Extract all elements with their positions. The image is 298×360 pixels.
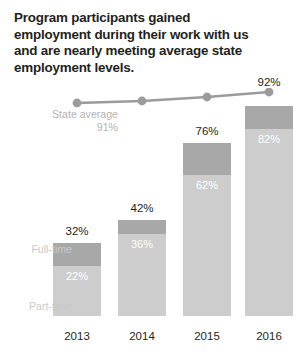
bar-column-2015: 76% 62% 2015 bbox=[183, 143, 231, 316]
x-axis-tick-2016: 2016 bbox=[245, 330, 293, 342]
bar-total-label-2015: 76% bbox=[183, 125, 231, 137]
bar-part-time-label-2015: 62% bbox=[183, 179, 231, 191]
headline-line-3: and are nearly meeting average state bbox=[14, 43, 286, 60]
bar-segment-full-time-2015 bbox=[183, 143, 231, 175]
state-average-annotation: State average 91% bbox=[18, 108, 118, 134]
chart-plot-area: 32% 22% 2013 42% 36% 2014 bbox=[0, 88, 298, 360]
legend-label-full-time: Full-time bbox=[0, 243, 72, 255]
stacked-bar-2015[interactable]: 62% bbox=[183, 143, 231, 316]
bar-segment-full-time-2014 bbox=[118, 220, 166, 234]
page-title: Program participants gained employment d… bbox=[14, 10, 286, 76]
state-average-annotation-title: State average bbox=[18, 108, 118, 121]
state-average-end-label: 92% bbox=[237, 76, 298, 88]
x-axis-tick-2015: 2015 bbox=[183, 330, 231, 342]
bar-segment-part-time-2015: 62% bbox=[183, 175, 231, 316]
bar-total-label-2013: 32% bbox=[53, 225, 101, 237]
x-axis-tick-2014: 2014 bbox=[118, 330, 166, 342]
bar-column-2016: 82% 2016 bbox=[245, 106, 293, 316]
headline-line-2: employment during their work with us bbox=[14, 27, 286, 44]
bar-part-time-label-2013: 22% bbox=[53, 270, 101, 282]
bar-part-time-label-2014: 36% bbox=[118, 238, 166, 250]
headline-line-1: Program participants gained bbox=[14, 10, 286, 27]
state-average-annotation-value: 91% bbox=[18, 121, 118, 134]
chart-figure: Program participants gained employment d… bbox=[0, 0, 298, 360]
bar-column-2014: 42% 36% 2014 bbox=[118, 220, 166, 316]
bar-segment-full-time-2016 bbox=[245, 106, 293, 129]
x-axis-tick-2013: 2013 bbox=[53, 330, 101, 342]
bar-segment-part-time-2014: 36% bbox=[118, 234, 166, 316]
bar-total-label-2014: 42% bbox=[118, 202, 166, 214]
headline-line-4: employment levels. bbox=[14, 60, 286, 77]
stacked-bar-2014[interactable]: 36% bbox=[118, 220, 166, 316]
legend-label-part-time: Part-time bbox=[0, 300, 72, 312]
bar-part-time-label-2016: 82% bbox=[245, 133, 293, 145]
bar-segment-part-time-2016: 82% bbox=[245, 129, 293, 316]
stacked-bar-2016[interactable]: 82% bbox=[245, 106, 293, 316]
